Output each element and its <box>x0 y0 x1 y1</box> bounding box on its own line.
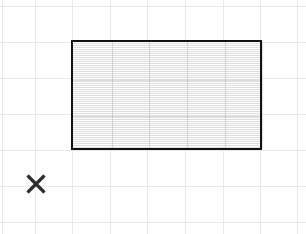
rectangle-inner-grid <box>73 42 260 148</box>
rectangle-inner-line-vertical <box>149 42 150 148</box>
grid-line-vertical <box>297 0 298 234</box>
rectangle-inner-line-vertical <box>225 42 226 148</box>
filled-rectangle[interactable] <box>71 40 262 150</box>
grid-line-horizontal <box>0 150 306 151</box>
grid-canvas <box>0 0 306 234</box>
grid-line-vertical <box>2 0 3 234</box>
rectangle-inner-line-horizontal <box>73 116 260 117</box>
grid-line-horizontal <box>0 6 306 7</box>
rectangle-inner-line-vertical <box>262 42 263 148</box>
rectangle-inner-line-vertical <box>112 42 113 148</box>
grid-line-horizontal <box>0 222 306 223</box>
rectangle-inner-line-horizontal <box>73 80 260 81</box>
grid-line-vertical <box>35 0 36 234</box>
x-marker-icon <box>25 173 47 195</box>
x-marker[interactable] <box>25 173 47 195</box>
rectangle-inner-line-vertical <box>187 42 188 148</box>
